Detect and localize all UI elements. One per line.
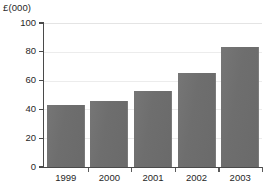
y-axis-tick-label: 20 <box>0 133 36 143</box>
x-axis-tick <box>262 167 263 172</box>
bar <box>221 47 259 167</box>
y-axis-tick-label: 0 <box>0 162 36 172</box>
y-axis-unit-label: £(000) <box>3 2 31 13</box>
bar-chart: £(000) 020406080100 19992000200120022003 <box>0 0 269 191</box>
x-axis-line <box>43 167 262 168</box>
x-axis-category-label: 2003 <box>218 172 262 183</box>
bar <box>134 91 172 167</box>
y-axis-line <box>43 22 44 168</box>
bar <box>178 73 216 167</box>
x-axis-category-label: 1999 <box>44 172 88 183</box>
y-axis-tick-label: 100 <box>0 18 36 28</box>
y-axis-tick-label: 60 <box>0 75 36 85</box>
gridline <box>44 23 262 24</box>
x-axis-category-label: 2002 <box>175 172 219 183</box>
y-axis-tick-label: 40 <box>0 104 36 114</box>
bar <box>90 101 128 167</box>
x-axis-category-label: 2000 <box>88 172 132 183</box>
y-axis-tick-label: 80 <box>0 46 36 56</box>
x-axis-category-label: 2001 <box>131 172 175 183</box>
bar <box>47 105 85 167</box>
